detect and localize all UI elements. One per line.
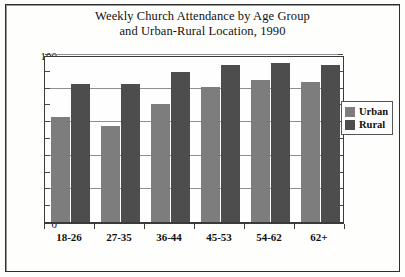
bar-urban-36-44	[151, 104, 170, 223]
plot-area	[44, 56, 344, 224]
chart-title-line-2: and Urban-Rural Location, 1990	[0, 24, 405, 39]
gridline-100	[45, 54, 343, 55]
bar-rural-54-62	[271, 63, 290, 223]
x-axis-line	[45, 222, 343, 223]
bar-urban-54-62	[251, 80, 270, 223]
x-axis-label-54-62: 54-62	[241, 231, 297, 243]
bar-urban-62+	[301, 82, 320, 223]
legend-swatch-urban-icon	[345, 107, 355, 117]
legend-label-urban: Urban	[359, 106, 388, 117]
x-tick-45-53	[244, 224, 245, 229]
bar-rural-18-26	[71, 84, 90, 223]
bar-rural-45-53	[221, 65, 240, 223]
legend-label-rural: Rural	[359, 119, 385, 130]
x-axis-label-62+: 62+	[291, 231, 347, 243]
y-tick-100	[45, 54, 50, 55]
x-axis-label-18-26: 18-26	[41, 231, 97, 243]
x-tick-27-35	[144, 224, 145, 229]
bar-rural-62+	[321, 65, 340, 223]
x-axis-label-27-35: 27-35	[91, 231, 147, 243]
bar-rural-27-35	[121, 84, 140, 223]
bar-group-45-53	[195, 57, 245, 223]
bar-group-18-26	[45, 57, 95, 223]
x-tick-62+	[344, 224, 345, 229]
bar-urban-18-26	[51, 117, 70, 223]
bar-rural-36-44	[171, 72, 190, 223]
legend-swatch-rural-icon	[345, 120, 355, 130]
bar-series-container	[45, 57, 343, 223]
chart-figure: Weekly Church Attendance by Age Group an…	[0, 0, 405, 277]
x-axis-label-36-44: 36-44	[141, 231, 197, 243]
chart-title-line-1: Weekly Church Attendance by Age Group	[0, 9, 405, 24]
bar-group-62+	[295, 57, 345, 223]
bar-urban-45-53	[201, 87, 220, 223]
x-axis-label-45-53: 45-53	[191, 231, 247, 243]
chart-title: Weekly Church Attendance by Age Group an…	[0, 9, 405, 39]
x-tick-origin	[44, 224, 45, 229]
bar-urban-27-35	[101, 126, 120, 223]
x-tick-54-62	[294, 224, 295, 229]
legend-item-rural: Rural	[345, 118, 388, 131]
legend-item-urban: Urban	[345, 105, 388, 118]
bar-group-54-62	[245, 57, 295, 223]
bar-group-36-44	[145, 57, 195, 223]
chart-legend: UrbanRural	[341, 101, 393, 135]
x-tick-36-44	[194, 224, 195, 229]
x-tick-18-26	[94, 224, 95, 229]
bar-group-27-35	[95, 57, 145, 223]
y-tick-100	[338, 54, 343, 55]
